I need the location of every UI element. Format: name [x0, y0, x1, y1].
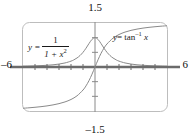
y-axis-min-label: –1.5: [0, 124, 190, 135]
curve-label-rational: y = 1 1 + x2: [28, 36, 69, 59]
x-axis-min-label: –6: [1, 59, 12, 70]
x-axis-max-label: 6: [183, 59, 189, 70]
curve-label-rational-lhs: y =: [28, 43, 40, 52]
y-axis-max-label: 1.5: [0, 2, 190, 13]
fraction-denominator: 1 + x2: [42, 47, 68, 59]
arctan-exponent: –1: [135, 30, 142, 37]
plot-canvas: [0, 0, 190, 136]
fraction: 1 1 + x2: [42, 36, 68, 59]
fraction-numerator: 1: [50, 36, 61, 46]
graph-figure: 1.5 –1.5 –6 6 y = 1 1 + x2 y= tan–1 x: [0, 0, 190, 136]
exponent: 2: [63, 47, 66, 54]
curve-label-arctan: y= tan–1 x: [113, 31, 148, 42]
